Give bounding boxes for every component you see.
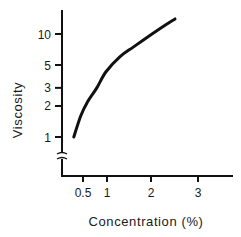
y-tick-label: 10: [38, 28, 52, 42]
y-axis-title: Viscosity: [10, 82, 25, 138]
axis-break-mark-upper: [57, 153, 67, 155]
y-tick-label: 5: [44, 59, 51, 73]
series-line-viscosity: [74, 19, 175, 137]
y-axis: [57, 10, 67, 177]
y-tick-label: 1: [44, 131, 51, 145]
x-tick-label: 2: [148, 186, 155, 200]
x-tick-label: 0.5: [75, 186, 92, 200]
y-tick-label: 3: [44, 81, 51, 95]
x-tick-label: 1: [104, 186, 111, 200]
x-tick-label: 3: [195, 186, 202, 200]
x-ticks: 0.5123: [75, 176, 202, 200]
y-ticks: 123510: [38, 28, 62, 145]
viscosity-chart: 123510 0.5123 Viscosity Concentration (%…: [0, 0, 241, 237]
series-group: [74, 19, 175, 137]
x-axis-title: Concentration (%): [89, 214, 204, 229]
y-tick-label: 2: [44, 99, 51, 113]
axis-break-mark-lower: [57, 158, 67, 160]
